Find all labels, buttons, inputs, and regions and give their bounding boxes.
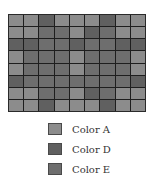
legend-item-color-d: Color D: [48, 143, 111, 155]
grid-cell: [70, 39, 84, 50]
grid-cell: [55, 88, 69, 99]
grid-cell: [70, 64, 84, 75]
grid-cell: [100, 15, 114, 26]
grid-cell: [116, 64, 130, 75]
grid-cell: [39, 76, 53, 87]
grid-cell: [131, 51, 145, 62]
grid-cell: [70, 88, 84, 99]
grid-cell: [100, 100, 114, 111]
grid-cell: [39, 88, 53, 99]
grid-cell: [39, 27, 53, 38]
grid-cell: [131, 100, 145, 111]
legend-label-a: Color A: [72, 124, 110, 135]
grid-cell: [39, 39, 53, 50]
grid-cell: [55, 15, 69, 26]
grid-cell: [85, 64, 99, 75]
grid-cell: [131, 88, 145, 99]
grid-cell: [100, 39, 114, 50]
grid-cell: [9, 27, 23, 38]
grid-cell: [85, 39, 99, 50]
grid-cell: [85, 100, 99, 111]
grid-cell: [55, 39, 69, 50]
grid-cell: [70, 15, 84, 26]
grid-cell: [100, 64, 114, 75]
legend-swatch-d: [48, 143, 62, 155]
grid-cell: [131, 39, 145, 50]
grid-cell: [116, 76, 130, 87]
grid-cell: [9, 88, 23, 99]
grid-cell: [100, 51, 114, 62]
legend-item-color-e: Color E: [48, 163, 111, 175]
grid-cell: [116, 51, 130, 62]
grid-cell: [85, 76, 99, 87]
legend-swatch-a: [48, 123, 62, 135]
grid-cell: [24, 15, 38, 26]
grid-cell: [116, 88, 130, 99]
grid-cell: [9, 76, 23, 87]
grid-cell: [70, 27, 84, 38]
grid-cell: [24, 64, 38, 75]
grid-cell: [39, 100, 53, 111]
grid-cell: [70, 51, 84, 62]
grid-cell: [131, 15, 145, 26]
grid-cell: [9, 39, 23, 50]
grid-cell: [55, 100, 69, 111]
grid-cell: [24, 100, 38, 111]
legend-swatch-e: [48, 163, 62, 175]
grid-cell: [9, 15, 23, 26]
grid-cell: [100, 27, 114, 38]
grid-cell: [39, 15, 53, 26]
grid-cell: [39, 64, 53, 75]
grid-cell: [24, 39, 38, 50]
legend: Color A Color D Color E: [48, 123, 111, 183]
color-grid: [8, 14, 146, 112]
grid-cell: [24, 76, 38, 87]
grid-cell: [116, 100, 130, 111]
grid-cell: [55, 64, 69, 75]
grid-cell: [131, 76, 145, 87]
grid-cell: [55, 27, 69, 38]
grid-cell: [116, 27, 130, 38]
grid-cell: [9, 64, 23, 75]
grid-cell: [85, 88, 99, 99]
grid-cell: [39, 51, 53, 62]
grid-cell: [55, 51, 69, 62]
grid-cell: [24, 27, 38, 38]
legend-item-color-a: Color A: [48, 123, 111, 135]
grid-cell: [70, 100, 84, 111]
legend-label-d: Color D: [72, 144, 111, 155]
grid-cell: [100, 76, 114, 87]
grid-cell: [55, 76, 69, 87]
grid-cell: [9, 51, 23, 62]
grid-cell: [85, 51, 99, 62]
grid-cell: [85, 27, 99, 38]
grid-cell: [85, 15, 99, 26]
grid-cell: [9, 100, 23, 111]
grid-cell: [116, 39, 130, 50]
grid-cell: [70, 76, 84, 87]
grid-cell: [131, 64, 145, 75]
grid-cell: [100, 88, 114, 99]
grid-cell: [24, 88, 38, 99]
legend-label-e: Color E: [72, 164, 110, 175]
grid-cell: [24, 51, 38, 62]
grid-cell: [116, 15, 130, 26]
grid-cell: [131, 27, 145, 38]
